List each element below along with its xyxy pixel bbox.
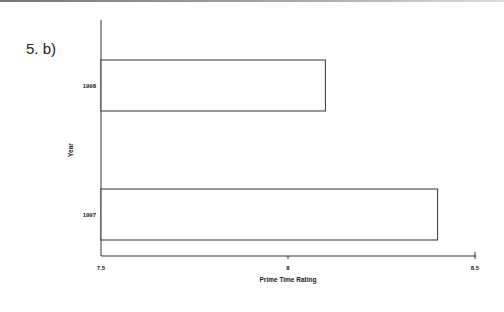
bar-1998: [101, 60, 325, 111]
bar-chart: 19971998 7.5 8 8.5 Prime Time Rating Yea…: [0, 0, 504, 312]
y-axis-label: Year: [67, 143, 74, 157]
x-tick-label: 7.5: [97, 265, 106, 271]
y-tick-label: 1998: [83, 83, 97, 89]
y-tick-label: 1997: [83, 212, 97, 218]
x-axis-label: Prime Time Rating: [260, 276, 317, 284]
bar-1997: [101, 189, 438, 240]
x-tick-label: 8: [286, 265, 290, 271]
x-tick-label: 8.5: [471, 265, 480, 271]
